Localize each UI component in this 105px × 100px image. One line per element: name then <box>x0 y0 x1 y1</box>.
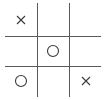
o-mark-icon <box>14 74 28 88</box>
cell-2-1[interactable] <box>38 67 68 95</box>
cell-0-1[interactable] <box>38 6 68 34</box>
cell-1-0[interactable] <box>6 37 36 65</box>
cell-2-2[interactable] <box>71 67 101 95</box>
cell-2-0[interactable] <box>6 67 36 95</box>
cell-1-2[interactable] <box>70 37 100 65</box>
cell-0-2[interactable] <box>70 6 100 34</box>
o-mark-icon <box>46 44 60 58</box>
x-mark-icon <box>81 76 91 86</box>
x-mark-icon <box>16 15 26 25</box>
cell-0-0[interactable] <box>6 6 36 34</box>
cell-1-1[interactable] <box>38 37 68 65</box>
tic-tac-toe-board <box>0 0 105 100</box>
